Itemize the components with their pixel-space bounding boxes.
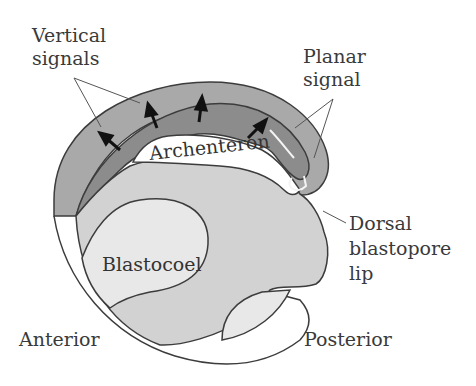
label-dorsal-line3: lip (349, 262, 373, 284)
label-vertical-line1: Vertical (31, 24, 106, 46)
label-planar-line1: Planar (303, 45, 367, 67)
label-planar-line2: signal (303, 68, 361, 90)
label-anterior: Anterior (18, 328, 100, 350)
label-blastocoel: Blastocoel (102, 253, 202, 275)
label-dorsal-line2: blastopore (349, 237, 451, 259)
label-dorsal-line1: Dorsal (349, 212, 412, 234)
gastrula-diagram: Vertical signals Planar signal Archenter… (0, 0, 476, 386)
label-posterior: Posterior (304, 328, 393, 350)
label-vertical-line2: signals (32, 47, 99, 69)
